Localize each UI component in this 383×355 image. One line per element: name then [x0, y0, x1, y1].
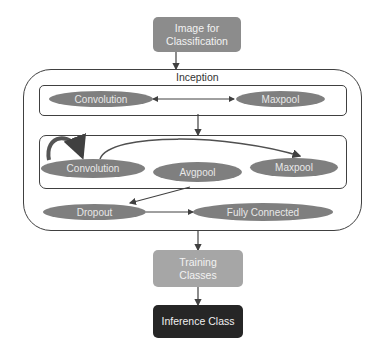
row2-maxpool: Maxpool [250, 158, 338, 177]
dropout-node: Dropout [43, 204, 146, 220]
row1-convolution: Convolution [49, 91, 153, 107]
input-node-line2: Classification [166, 35, 228, 48]
input-node: Image for Classification [153, 17, 241, 52]
training-node-line1: Training [179, 256, 217, 269]
training-node-line2: Classes [179, 269, 216, 282]
inception-label: Inception [176, 71, 219, 83]
input-node-line1: Image for [175, 22, 219, 35]
row2-convolution: Convolution [41, 159, 145, 178]
fully-connected-node: Fully Connected [193, 203, 333, 221]
training-node: Training Classes [153, 250, 243, 287]
inference-node: Inference Class [153, 305, 243, 338]
row1-maxpool: Maxpool [236, 91, 325, 107]
row2-avgpool: Avgpool [153, 162, 242, 182]
